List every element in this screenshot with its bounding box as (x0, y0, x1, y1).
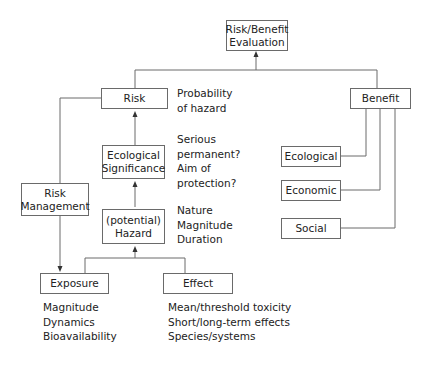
effect-note-line: Species/systems (168, 329, 291, 344)
risk-label: Risk (124, 92, 146, 105)
exposure-note: MagnitudeDynamicsBioavailability (43, 300, 117, 344)
risk-note: Probabilityof hazard (177, 86, 233, 115)
benefit-social-label: Social (295, 222, 326, 235)
hazard-label-line2: Hazard (106, 227, 161, 240)
risk-benefit-evaluation-box: Risk/Benefit Evaluation (226, 20, 288, 51)
risk-box: Risk (101, 88, 168, 109)
benefit-economic-box: Economic (281, 180, 341, 201)
effect-note-line: Mean/threshold toxicity (168, 300, 291, 315)
exposure-label: Exposure (50, 277, 99, 290)
risk-note-line: Probability (177, 86, 233, 101)
hazard-note-line: Nature (177, 203, 233, 218)
benefit-box: Benefit (350, 88, 411, 109)
benefit-social-box: Social (281, 218, 341, 239)
effect-label: Effect (183, 277, 213, 290)
effect-note: Mean/threshold toxicityShort/long-term e… (168, 300, 291, 344)
risk-management-label-line1: Risk (20, 187, 89, 200)
risk-benefit-evaluation-label-line2: Evaluation (226, 36, 289, 49)
exposure-note-line: Bioavailability (43, 329, 117, 344)
hazard-note-line: Duration (177, 232, 233, 247)
ecological-significance-label-line1: Ecological (102, 149, 166, 162)
ecological-significance-label-line2: Significance (102, 162, 166, 175)
hazard-box: (potential) Hazard (102, 209, 165, 244)
benefit-ecological-box: Ecological (281, 146, 341, 167)
ecological-significance-note-line: Aim of (177, 161, 240, 176)
hazard-note: NatureMagnitudeDuration (177, 203, 233, 247)
risk-benefit-evaluation-label-line1: Risk/Benefit (226, 23, 289, 36)
risk-note-line: of hazard (177, 101, 233, 116)
exposure-box: Exposure (40, 273, 109, 294)
ecological-significance-note: Seriouspermanent?Aim ofprotection? (177, 132, 240, 190)
benefit-economic-label: Economic (286, 184, 337, 197)
exposure-note-line: Dynamics (43, 315, 117, 330)
effect-note-line: Short/long-term effects (168, 315, 291, 330)
exposure-note-line: Magnitude (43, 300, 117, 315)
hazard-note-line: Magnitude (177, 218, 233, 233)
ecological-significance-note-line: Serious (177, 132, 240, 147)
effect-box: Effect (163, 273, 233, 294)
ecological-significance-note-line: permanent? (177, 147, 240, 162)
benefit-label: Benefit (362, 92, 400, 105)
risk-management-box: Risk Management (21, 183, 89, 216)
risk-management-label-line2: Management (20, 200, 89, 213)
ecological-significance-note-line: protection? (177, 176, 240, 191)
hazard-label-line1: (potential) (106, 214, 161, 227)
ecological-significance-box: Ecological Significance (102, 145, 165, 179)
benefit-ecological-label: Ecological (285, 150, 338, 163)
